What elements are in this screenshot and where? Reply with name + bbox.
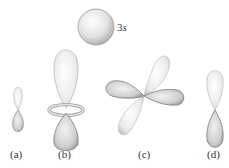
label-d: (d) bbox=[207, 148, 220, 160]
label-c: (c) bbox=[138, 148, 150, 160]
orbital-d bbox=[207, 71, 223, 148]
sphere-label: 3s bbox=[117, 21, 127, 33]
label-a: (a) bbox=[10, 148, 22, 160]
orbital-c bbox=[106, 56, 184, 135]
label-b: (b) bbox=[58, 148, 71, 160]
orbital-diagram bbox=[0, 0, 229, 168]
orbital-a bbox=[13, 88, 24, 132]
sphere-label-subshell: s bbox=[123, 21, 127, 33]
s-orbital-sphere bbox=[78, 9, 114, 45]
orbital-b bbox=[49, 50, 83, 151]
